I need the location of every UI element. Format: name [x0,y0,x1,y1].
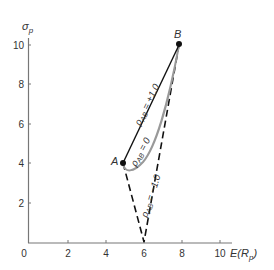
rho-plus-label: ρAB = +1.0 [131,82,162,129]
x-tick-label: 6 [141,248,147,259]
x-tick-label: 8 [179,248,185,259]
rho-minus-label: ρAB = −1.0 [138,172,164,220]
y-tick-label: 4 [18,158,24,169]
point-a-label: A [110,155,118,167]
x-tick-label: 10 [214,248,226,259]
point-b-label: B [174,28,181,40]
y-tick-label: 6 [18,119,24,130]
y-tick-label: 2 [18,198,24,209]
x-axis-label: E(Rp) [230,247,257,262]
point-a-marker [120,160,126,166]
y-tick-label: 10 [13,40,25,51]
x-tick-label: 2 [65,248,71,259]
point-b-marker [176,41,182,47]
y-axis-label: σp [22,20,34,35]
x-tick-label: 4 [103,248,109,259]
efficient-frontier-chart: 10 8 6 4 2 0 2 4 6 8 10 σp E(Rp) A B ρAB… [0,0,274,270]
y-tick-label: 8 [18,79,24,90]
origin-label: 0 [21,248,27,259]
